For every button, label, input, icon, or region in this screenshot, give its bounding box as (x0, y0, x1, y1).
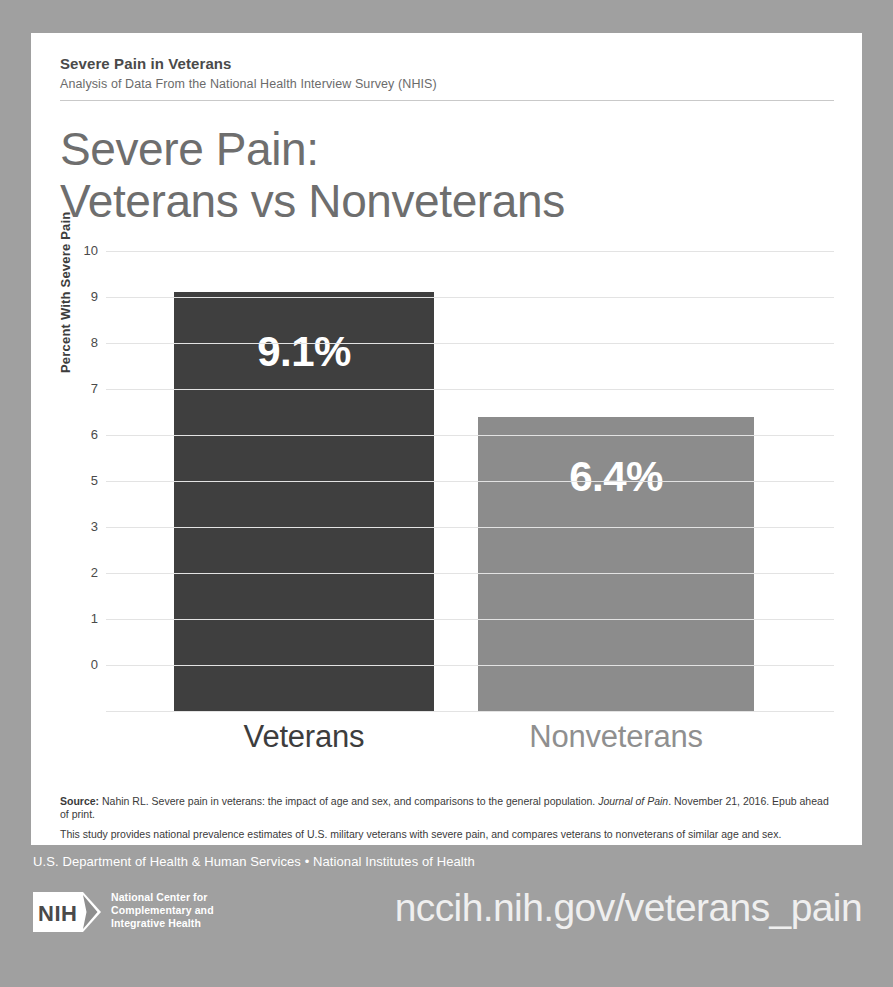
bar-value-label: 6.4% (478, 453, 754, 501)
gridline (106, 573, 834, 574)
plot-area: 9.1%6.4% 10987653210 (106, 251, 834, 711)
source-summary: This study provides national prevalence … (60, 828, 836, 841)
x-axis-label-veterans: Veterans (174, 719, 434, 755)
nih-logo-text: National Center for Complementary and In… (111, 891, 214, 930)
page-title-line-2: Veterans vs Nonveterans (60, 175, 834, 227)
y-axis-tick-label: 8 (66, 335, 98, 350)
gridline (106, 711, 834, 712)
agency-line: U.S. Department of Health & Human Servic… (33, 854, 862, 869)
nih-badge-icon: NIH (33, 892, 103, 932)
nih-logo-line-1: National Center for (111, 891, 214, 904)
x-axis-labels: VeteransNonveterans (106, 719, 834, 761)
bar-nonveterans: 6.4% (478, 417, 754, 711)
kicker-subheading: Analysis of Data From the National Healt… (60, 77, 834, 91)
nih-logo: NIH National Center for Complementary an… (33, 890, 229, 936)
header-divider (60, 100, 834, 101)
y-axis-tick-label: 9 (66, 289, 98, 304)
gridline (106, 481, 834, 482)
bar-value-label: 9.1% (174, 328, 434, 376)
gridline (106, 435, 834, 436)
page-title-line-1: Severe Pain: (60, 123, 834, 175)
page-title: Severe Pain: Veterans vs Nonveterans (60, 123, 834, 227)
gridline (106, 619, 834, 620)
nih-logo-line-3: Integrative Health (111, 917, 214, 930)
gridline (106, 343, 834, 344)
bar-veterans: 9.1% (174, 292, 434, 711)
gridline (106, 251, 834, 252)
infographic-card: Severe Pain in Veterans Analysis of Data… (31, 33, 862, 845)
source-label: Source: (60, 795, 99, 807)
y-axis-tick-label: 10 (66, 243, 98, 258)
card-content: Severe Pain in Veterans Analysis of Data… (60, 55, 834, 845)
poster-background: Severe Pain in Veterans Analysis of Data… (0, 0, 893, 987)
y-axis-tick-label: 7 (66, 381, 98, 396)
source-citation-part-1: Nahin RL. Severe pain in veterans: the i… (99, 795, 598, 807)
y-axis-tick-label: 2 (66, 565, 98, 580)
source-citation: Source: Nahin RL. Severe pain in veteran… (60, 795, 836, 821)
bar-chart: Percent With Severe Pain 9.1%6.4% 109876… (60, 245, 834, 737)
footer: U.S. Department of Health & Human Servic… (31, 850, 862, 954)
footer-row: NIH National Center for Complementary an… (33, 886, 862, 946)
y-axis-tick-label: 5 (66, 473, 98, 488)
website-url[interactable]: nccih.nih.gov/veterans_pain (395, 886, 862, 930)
y-axis-tick-label: 1 (66, 611, 98, 626)
source-note: Source: Nahin RL. Severe pain in veteran… (60, 795, 836, 848)
gridline (106, 297, 834, 298)
source-journal: Journal of Pain (598, 795, 668, 807)
nih-logo-line-2: Complementary and (111, 904, 214, 917)
x-axis-label-nonveterans: Nonveterans (478, 719, 754, 755)
y-axis-tick-label: 6 (66, 427, 98, 442)
gridline (106, 665, 834, 666)
y-axis-tick-label: 0 (66, 657, 98, 672)
gridline (106, 389, 834, 390)
svg-text:NIH: NIH (38, 901, 77, 926)
kicker-heading: Severe Pain in Veterans (60, 55, 834, 72)
gridline (106, 527, 834, 528)
y-axis-tick-label: 3 (66, 519, 98, 534)
